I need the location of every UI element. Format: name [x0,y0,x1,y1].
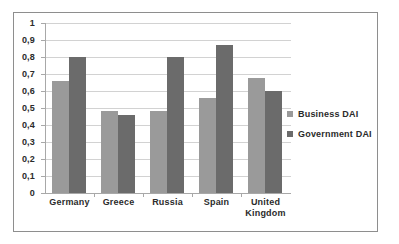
bar-spain-government-dai[interactable] [216,45,233,193]
y-tick-label-0-4: 0,4 [22,120,35,130]
y-tick-label-0: 0 [30,188,35,198]
bar-germany-government-dai[interactable] [69,57,86,193]
bar-united-kingdom-government-dai[interactable] [265,91,282,193]
bar-greece-government-dai[interactable] [118,115,135,193]
screenshot-root: 1 0,9 0,8 0,7 0,6 0,5 0,4 0,3 [0,0,399,244]
chart-frame: 1 0,9 0,8 0,7 0,6 0,5 0,4 0,3 [13,12,378,232]
x-tick-label-germany: Germany [45,197,94,208]
legend-entry-business-dai[interactable]: Business DAI [287,109,372,119]
category-axis-line [45,193,291,194]
bar-group-russia: Russia [143,23,192,193]
y-tick-label-0-8: 0,8 [22,52,35,62]
y-tick-label-0-7: 0,7 [22,69,35,79]
bar-group-greece: Greece [94,23,143,193]
bar-group-germany: Germany [45,23,94,193]
x-tick-label-united-kingdom: United Kingdom [241,197,290,219]
bar-group-united-kingdom: United Kingdom [241,23,290,193]
y-tick-mark-0: 0 [41,193,45,194]
bar-greece-business-dai[interactable] [101,111,118,193]
plot-area: 1 0,9 0,8 0,7 0,6 0,5 0,4 0,3 [45,23,291,203]
y-tick-label-0-5: 0,5 [22,103,35,113]
y-tick-label-0-9: 0,9 [22,35,35,45]
legend-entry-government-dai[interactable]: Government DAI [287,129,372,139]
legend-label-business-dai: Business DAI [298,109,358,119]
legend-swatch-business-icon [287,111,293,117]
bar-russia-government-dai[interactable] [167,57,184,193]
x-tick-label-russia: Russia [143,197,192,208]
y-tick-label-0-3: 0,3 [22,137,35,147]
legend-swatch-government-icon [287,131,293,137]
chart-legend: Business DAI Government DAI [287,109,372,149]
y-tick-label-0-2: 0,2 [22,154,35,164]
bar-united-kingdom-business-dai[interactable] [248,78,265,193]
bar-group-spain: Spain [192,23,241,193]
x-tick-label-greece: Greece [94,197,143,208]
y-tick-label-0-1: 0,1 [22,171,35,181]
y-tick-label-1-0: 1 [30,18,35,28]
y-tick-label-0-6: 0,6 [22,86,35,96]
bar-russia-business-dai[interactable] [150,111,167,193]
bar-spain-business-dai[interactable] [199,98,216,193]
legend-label-government-dai: Government DAI [298,129,372,139]
x-tick-label-spain: Spain [192,197,241,208]
bar-germany-business-dai[interactable] [52,81,69,193]
